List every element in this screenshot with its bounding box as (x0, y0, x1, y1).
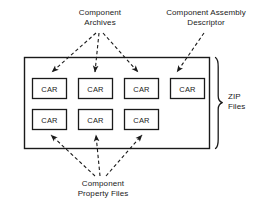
car-box-label: CAR (41, 116, 58, 125)
label-component-property-files: Component Property Files (48, 179, 158, 198)
label-component-assembly-descriptor: Component Assembly Descriptor (150, 8, 262, 27)
arrows-from-component-archives (52, 33, 138, 72)
arrow-properties-to-car7 (106, 135, 142, 176)
arrow-archives-to-car2 (95, 33, 99, 72)
arrows-from-property-files (51, 135, 142, 176)
car-box-label: CAR (87, 85, 104, 94)
component-archive-diagram: CAR CAR CAR CAR CAR CAR (0, 0, 270, 210)
car-box-1: CAR (33, 79, 67, 99)
car-box-5: CAR (33, 110, 67, 130)
car-box-row-1: CAR CAR CAR CAR (33, 79, 205, 99)
car-box-label: CAR (133, 85, 150, 94)
car-box-3: CAR (125, 79, 159, 99)
arrow-properties-to-car6 (96, 135, 100, 176)
arrows-from-assembly-descriptor (177, 33, 204, 72)
label-component-archives: Component Archives (52, 8, 148, 27)
car-box-label: CAR (87, 116, 104, 125)
zip-files-brace (216, 58, 223, 149)
arrow-properties-to-car5 (51, 135, 95, 176)
car-box-6: CAR (79, 110, 113, 130)
label-zip-files: ZIP Files (228, 92, 268, 111)
arrow-archives-to-car3 (103, 33, 138, 72)
car-box-label: CAR (179, 85, 196, 94)
car-box-2: CAR (79, 79, 113, 99)
arrow-archives-to-car1 (52, 33, 96, 72)
car-box-row-2: CAR CAR CAR (33, 110, 159, 130)
outer-container (25, 58, 210, 149)
car-box-4: CAR (171, 79, 205, 99)
car-box-label: CAR (41, 85, 58, 94)
car-box-7: CAR (125, 110, 159, 130)
arrow-descriptor-to-car4 (177, 33, 204, 72)
car-box-label: CAR (133, 116, 150, 125)
